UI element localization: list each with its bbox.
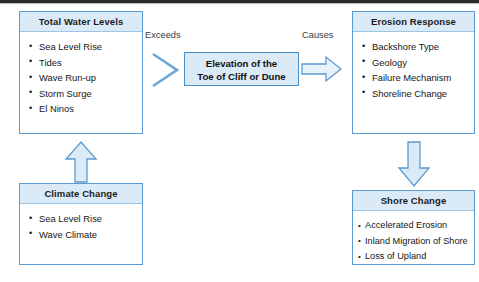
list-climate-change: Sea Level Rise Wave Climate [29,211,138,242]
chevron-right-icon [148,50,184,90]
box-climate-change: Climate Change Sea Level Rise Wave Clima… [19,183,143,265]
list-item: Failure Mechanism [362,70,470,86]
box-erosion-response: Erosion Response Backshore Type Geology … [352,11,475,134]
box-total-water-levels-body: Sea Level Rise Tides Wave Run-up Storm S… [20,32,142,121]
list-item: Sea Level Rise [29,211,138,227]
list-item: Backshore Type [362,39,470,55]
list-item: Storm Surge [29,86,138,102]
list-item: Wave Run-up [29,70,138,86]
top-divider-rule-soft [0,3,479,4]
arrow-up-icon [62,140,100,184]
box-shore-change-title: Shore Change [353,191,474,211]
box-elevation-line1: Elevation of the [185,57,298,70]
list-item: Accelerated Erosion [358,218,470,234]
diagram-canvas: Total Water Levels Sea Level Rise Tides … [0,0,479,282]
box-erosion-response-title: Erosion Response [353,12,474,32]
box-elevation-line2: Toe of Cliff or Dune [185,70,298,83]
box-erosion-response-body: Backshore Type Geology Failure Mechanism… [353,32,474,105]
list-item: El Ninos [29,101,138,117]
list-item: Sea Level Rise [29,39,138,55]
list-item: Tides [29,55,138,71]
box-total-water-levels-title: Total Water Levels [20,12,142,32]
box-climate-change-title: Climate Change [20,184,142,204]
list-erosion-response: Backshore Type Geology Failure Mechanism… [362,39,470,101]
box-shore-change-body: Accelerated Erosion Inland Migration of … [353,211,474,269]
list-item: Inland Migration of Shore [358,234,470,250]
box-elevation-text: Elevation of the Toe of Cliff or Dune [185,53,298,83]
list-item: Wave Climate [29,227,138,243]
list-shore-change: Accelerated Erosion Inland Migration of … [358,218,470,265]
box-total-water-levels: Total Water Levels Sea Level Rise Tides … [19,11,143,134]
connector-label-exceeds: Exceeds [145,30,181,40]
list-item: Loss of Upland [358,249,470,265]
box-elevation-of-toe: Elevation of the Toe of Cliff or Dune [184,52,299,86]
list-item: Geology [362,55,470,71]
list-total-water-levels: Sea Level Rise Tides Wave Run-up Storm S… [29,39,138,117]
box-shore-change: Shore Change Accelerated Erosion Inland … [352,190,475,265]
connector-label-causes: Causes [302,30,334,40]
list-item: Shoreline Change [362,86,470,102]
arrow-down-icon [395,140,433,188]
box-climate-change-body: Sea Level Rise Wave Climate [20,204,142,246]
arrow-right-icon [300,54,344,84]
